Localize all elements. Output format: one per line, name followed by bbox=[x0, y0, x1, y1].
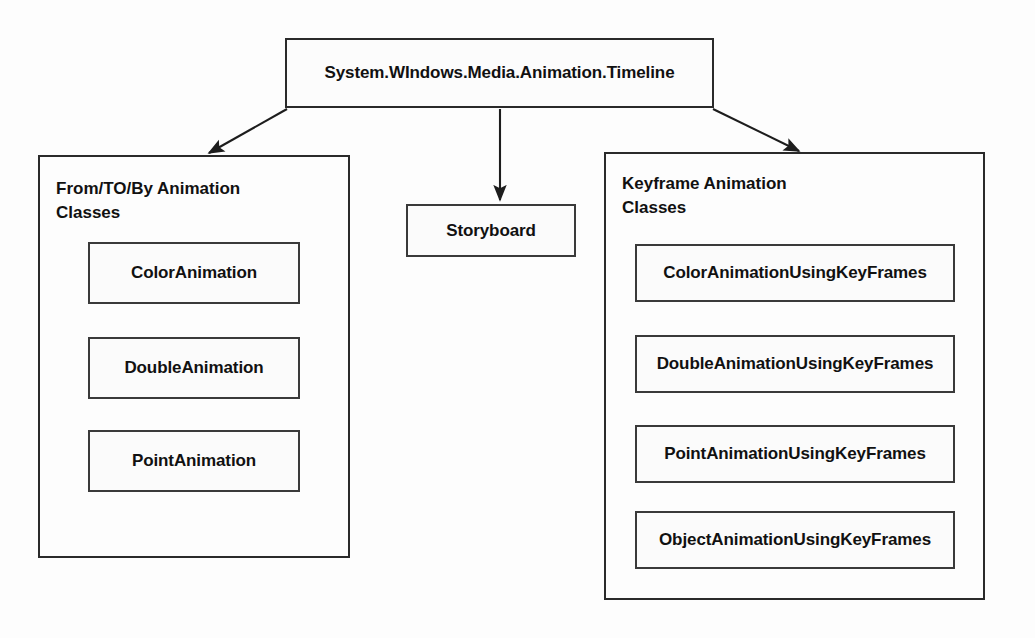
node-double-animation[interactable]: DoubleAnimation bbox=[88, 337, 300, 399]
node-color-animation-using-keyframes[interactable]: ColorAnimationUsingKeyFrames bbox=[635, 244, 955, 302]
node-object-animation-using-keyframes-label: ObjectAnimationUsingKeyFrames bbox=[659, 530, 931, 550]
node-storyboard[interactable]: Storyboard bbox=[406, 204, 576, 257]
connector-root-to-keyframe bbox=[713, 109, 799, 151]
node-object-animation-using-keyframes[interactable]: ObjectAnimationUsingKeyFrames bbox=[635, 511, 955, 569]
node-double-animation-using-keyframes[interactable]: DoubleAnimationUsingKeyFrames bbox=[635, 335, 955, 393]
node-color-animation-label: ColorAnimation bbox=[131, 263, 257, 283]
node-point-animation-using-keyframes[interactable]: PointAnimationUsingKeyFrames bbox=[635, 425, 955, 483]
node-root-label: System.WIndows.Media.Animation.Timeline bbox=[324, 63, 674, 83]
connector-root-to-fromtoby bbox=[209, 109, 287, 153]
group-from-to-by-animation-classes[interactable]: From/TO/By Animation Classes ColorAnimat… bbox=[38, 155, 350, 558]
node-double-animation-label: DoubleAnimation bbox=[124, 358, 263, 378]
node-color-animation-using-keyframes-label: ColorAnimationUsingKeyFrames bbox=[663, 263, 927, 283]
node-color-animation[interactable]: ColorAnimation bbox=[88, 242, 300, 304]
node-double-animation-using-keyframes-label: DoubleAnimationUsingKeyFrames bbox=[657, 354, 934, 374]
group-keyframe-animation-classes[interactable]: Keyframe Animation Classes ColorAnimatio… bbox=[604, 152, 985, 600]
group-from-to-by-title: From/TO/By Animation Classes bbox=[56, 177, 240, 225]
group-keyframe-title: Keyframe Animation Classes bbox=[622, 172, 787, 220]
node-point-animation[interactable]: PointAnimation bbox=[88, 430, 300, 492]
node-root-timeline[interactable]: System.WIndows.Media.Animation.Timeline bbox=[285, 38, 714, 108]
diagram-canvas: System.WIndows.Media.Animation.Timeline … bbox=[0, 0, 1035, 638]
node-point-animation-label: PointAnimation bbox=[132, 451, 256, 471]
node-storyboard-label: Storyboard bbox=[446, 221, 536, 241]
node-point-animation-using-keyframes-label: PointAnimationUsingKeyFrames bbox=[664, 444, 926, 464]
